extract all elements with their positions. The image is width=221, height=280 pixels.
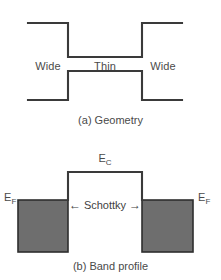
fermi-right-subscript: F: [205, 197, 210, 206]
fermi-level-label-left: EF: [4, 192, 16, 206]
panel-a-caption: (a) Geometry: [78, 114, 143, 126]
upper-boundary-path: [28, 23, 182, 57]
conduction-band-label: EC: [98, 153, 111, 167]
left-electrode-fill: [18, 200, 68, 252]
fermi-left-subscript: F: [11, 197, 16, 206]
conduction-band-edge-path: [68, 172, 142, 200]
schottky-label: Schottky: [83, 199, 127, 211]
panel-band: EC EF EF ←Schottky→ (b) Band profile: [0, 140, 221, 280]
schottky-annotation: ←Schottky→: [67, 198, 143, 212]
region-label-middle: Thin: [94, 61, 116, 72]
arrow-left-icon: ←: [67, 198, 83, 212]
panel-b-caption: (b) Band profile: [73, 260, 148, 272]
panel-geometry: Wide Thin Wide (a) Geometry: [0, 0, 221, 140]
conduction-band-subscript: C: [106, 158, 112, 167]
fermi-level-label-right: EF: [198, 192, 210, 206]
figure-root: Wide Thin Wide (a) Geometry EC EF EF ←S: [0, 0, 221, 280]
region-label-left: Wide: [35, 61, 60, 72]
lower-boundary-path: [28, 71, 182, 100]
arrow-right-icon: →: [127, 198, 143, 212]
right-electrode-fill: [142, 200, 193, 252]
region-label-right: Wide: [150, 61, 175, 72]
